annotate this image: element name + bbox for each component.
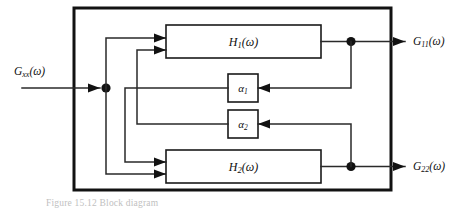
arrowhead-h1-input-top	[154, 34, 166, 43]
figure-caption: Figure 15.12 Block diagram	[46, 198, 158, 208]
block-h1-label-arg: (ω)	[242, 34, 258, 48]
arrowhead-output-g11	[393, 37, 405, 46]
output-label-g22-sub: 22	[421, 165, 429, 174]
gain-alpha2-label-sub: 2	[244, 122, 248, 131]
arrowhead-alpha1-input	[258, 84, 270, 93]
output-label-g22-arg: (ω)	[429, 160, 445, 173]
arrowhead-h1-input-bottom	[154, 46, 166, 55]
output-label-g11: G11(ω)	[413, 35, 445, 49]
gain-alpha1-label-sub: 1	[244, 86, 248, 95]
input-label-gxx-arg: (ω)	[29, 65, 45, 78]
arrowhead-alpha2-input	[258, 120, 270, 129]
arrowhead-h2-input-bottom	[154, 170, 166, 179]
input-label-gxx: Gxx(ω)	[14, 65, 45, 79]
output-label-g11-sub: 11	[421, 40, 428, 49]
block-h2-label: H2(ω)	[228, 159, 258, 174]
wire-node-to-h1	[106, 38, 166, 88]
wire-alpha2-to-h1	[137, 50, 228, 124]
figure-block-diagram: H1(ω) H2(ω) α1 α2	[0, 0, 459, 210]
diagram-canvas: H1(ω) H2(ω) α1 α2	[0, 0, 459, 210]
output-label-g11-arg: (ω)	[429, 35, 445, 48]
arrowhead-h2-input-top	[154, 158, 166, 167]
output-label-g22: G22(ω)	[413, 160, 445, 174]
block-h1-label: H1(ω)	[228, 34, 258, 49]
block-h2-label-arg: (ω)	[242, 159, 258, 173]
arrowhead-input-node	[88, 84, 100, 93]
arrowhead-output-g22	[393, 162, 405, 171]
